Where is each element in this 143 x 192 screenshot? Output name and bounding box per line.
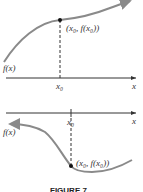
bottom-panel: (x₀, f(x₀)) f(x) x₀ x xyxy=(3,109,136,172)
bottom-point-label: (x₀, f(x₀)) xyxy=(76,158,109,168)
top-axis-label: x xyxy=(131,81,136,91)
top-point xyxy=(58,18,62,22)
bottom-tick-label: x₀ xyxy=(66,117,74,127)
top-tick-label: x₀ xyxy=(55,81,63,91)
top-point-label: (x₀, f(x₀)) xyxy=(66,23,99,33)
bottom-function-label: f(x) xyxy=(3,127,16,137)
figure-canvas: (x₀, f(x₀)) f(x) x₀ x (x₀, f(x₀)) f(x) x… xyxy=(0,0,143,192)
bottom-point xyxy=(69,164,73,168)
figure-caption: FIGURE 7 xyxy=(50,186,87,192)
bottom-axis-label: x xyxy=(131,116,136,126)
top-panel: (x₀, f(x₀)) f(x) x₀ x xyxy=(3,1,136,91)
top-function-label: f(x) xyxy=(3,63,16,73)
